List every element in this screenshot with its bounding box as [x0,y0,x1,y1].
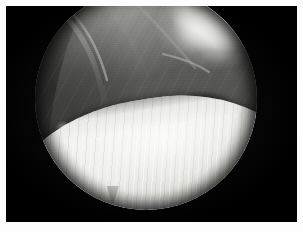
photo-frame [0,0,303,232]
figure-root: Arthroscopic view of a joint showing sof… [0,0,303,232]
scope-backdrop [6,6,297,222]
cartilage-upper-edge-shadow [35,76,257,210]
cartilage-surface [35,76,257,210]
endoscope-circular-field [35,6,257,210]
